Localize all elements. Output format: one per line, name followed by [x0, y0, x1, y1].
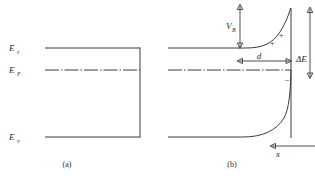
panel-a-valence-band-label-text: E: [8, 132, 15, 142]
panel-b-depletion-width-label: d: [257, 51, 262, 61]
panel-a-fermi-level-label-text: E: [8, 65, 15, 75]
panel-a-conduction-band-label-text: E: [8, 43, 15, 53]
panel-a-conduction-band-label: E c: [8, 43, 20, 55]
panel-b-energy-shift-label: ΔE: [295, 54, 307, 64]
panel-a-valence-band-label: E v: [8, 132, 20, 144]
panel-b-caption: (b): [227, 160, 237, 169]
panel-a-conduction-band-label-subscript: c: [17, 49, 20, 55]
panel-b-x-axis: [270, 143, 315, 148]
panel-a: E c E F E v (a): [8, 43, 140, 169]
band-diagram-figure: E c E F E v (a): [0, 0, 315, 176]
panel-a-caption: (a): [63, 160, 72, 169]
panel-b-barrier-height-label-subscript: B: [232, 27, 236, 33]
panel-b-depletion-width-arrow: [237, 58, 292, 63]
panel-b-energy-shift-arrow: [307, 7, 313, 79]
figure-canvas: E c E F E v (a): [0, 0, 315, 176]
panel-b-x-axis-label: x: [275, 149, 280, 159]
panel-a-valence-band-label-subscript: v: [17, 138, 20, 144]
panel-b-positive-charge-sign-2: +: [279, 31, 284, 40]
panel-b: V B + + – d ΔE: [168, 4, 315, 169]
panel-b-negative-charge-sign: –: [284, 75, 290, 84]
panel-b-barrier-height-label: V B: [226, 21, 236, 33]
panel-a-fermi-level-label-subscript: F: [16, 71, 21, 77]
panel-b-valence-band-curve: [168, 70, 291, 137]
panel-b-barrier-height-arrow: [237, 4, 243, 49]
panel-b-positive-charge-sign-1: +: [270, 39, 275, 48]
panel-a-fermi-level-label: E F: [8, 65, 21, 77]
